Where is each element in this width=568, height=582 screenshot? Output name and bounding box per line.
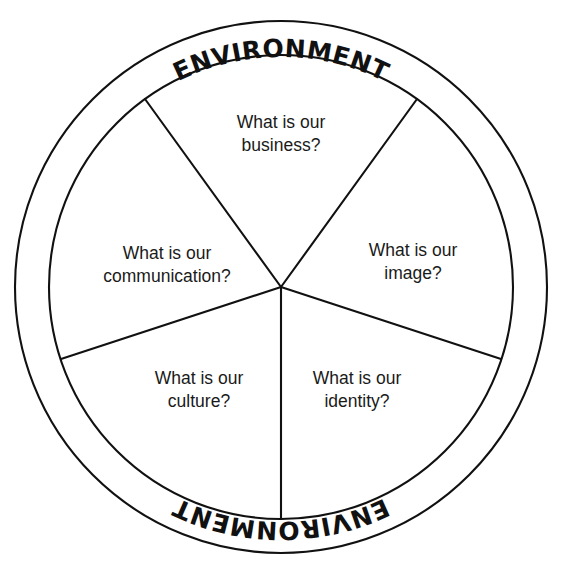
identity-wheel-diagram: ENVIRONMENT ENVIRONMENT What is our busi…: [0, 0, 568, 582]
segment-label-business-line1: What is our: [237, 111, 326, 134]
segment-label-communication: What is our communication?: [103, 242, 230, 288]
segment-label-communication-line2: communication?: [103, 265, 230, 288]
wheel-graphic: ENVIRONMENT ENVIRONMENT: [0, 0, 568, 582]
segment-label-image: What is our image?: [369, 239, 458, 285]
segment-label-culture-line2: culture?: [155, 390, 244, 413]
segment-label-business-line2: business?: [237, 134, 326, 157]
segment-label-identity-line1: What is our: [313, 367, 402, 390]
segment-label-culture-line1: What is our: [155, 367, 244, 390]
segment-label-image-line1: What is our: [369, 239, 458, 262]
segment-label-image-line2: image?: [369, 262, 458, 285]
segment-label-culture: What is our culture?: [155, 367, 244, 413]
segment-label-identity: What is our identity?: [313, 367, 402, 413]
segment-label-identity-line2: identity?: [313, 390, 402, 413]
segment-label-business: What is our business?: [237, 111, 326, 157]
segment-label-communication-line1: What is our: [103, 242, 230, 265]
